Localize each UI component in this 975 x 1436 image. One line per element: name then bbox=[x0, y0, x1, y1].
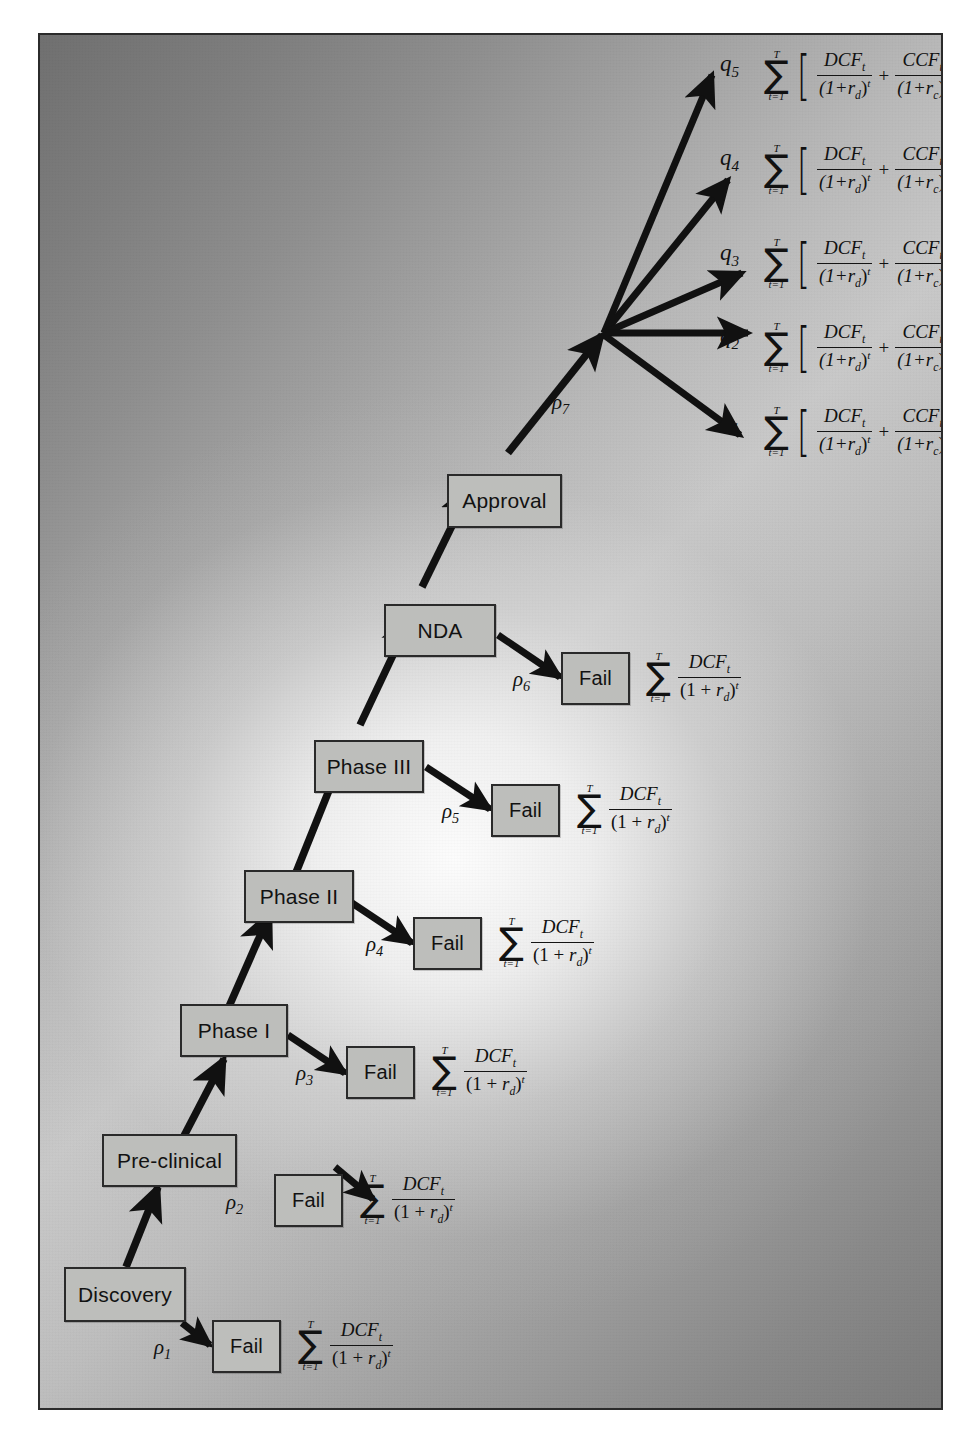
node-nda[interactable]: NDA bbox=[384, 604, 496, 657]
q-1-symbol: q bbox=[720, 407, 732, 432]
sigma-glyph-q4: ∑ bbox=[764, 153, 789, 184]
sigma-glyph-q2: ∑ bbox=[764, 331, 789, 362]
node-phase-iii[interactable]: Phase III bbox=[314, 740, 424, 793]
q-5-subscript: 5 bbox=[732, 63, 740, 80]
node-discovery[interactable]: Discovery bbox=[64, 1267, 186, 1322]
fraction-fail-2: DCFt (1 + rd)t bbox=[389, 1173, 458, 1226]
ccf-numerator-q1: CCFt bbox=[900, 405, 943, 431]
ccf-denominator-q3: (1+rc)t bbox=[895, 263, 943, 290]
fraction-ccf-q2: CCFt (1+rc)t bbox=[892, 321, 943, 374]
label-q-3: q3 bbox=[720, 240, 739, 270]
sigma-q2: T ∑ t=1 bbox=[764, 321, 789, 373]
bracket-open-q1: [ bbox=[797, 415, 810, 448]
sigma-lower-q4: t=1 bbox=[768, 185, 784, 196]
label-rho-6: ρ6 bbox=[513, 667, 530, 695]
dcf-numerator-q2: DCFt bbox=[822, 321, 867, 347]
sigma-fail-1: T ∑ t=1 bbox=[298, 1319, 323, 1371]
sigma-fail-5: T ∑ t=1 bbox=[577, 783, 602, 835]
formula-fail-5: T ∑ t=1 DCFt (1 + rd)t bbox=[577, 783, 675, 836]
sigma-glyph-fail-4: ∑ bbox=[499, 926, 524, 957]
sigma-fail-4: T ∑ t=1 bbox=[499, 916, 524, 968]
node-fail-3[interactable]: Fail bbox=[346, 1046, 415, 1099]
node-phase-ii-label: Phase II bbox=[260, 885, 339, 909]
arrow-discovery-to-preclinical bbox=[126, 1187, 158, 1267]
ccf-numerator-q4: CCFt bbox=[900, 143, 943, 169]
rho-1-symbol: ρ bbox=[154, 1335, 164, 1359]
ccf-denominator-q1: (1+rc)t bbox=[895, 431, 943, 458]
q-2-subscript: 2 bbox=[732, 335, 740, 352]
fraction-dcf-q3: DCFt (1+rd)t bbox=[814, 237, 875, 290]
fraction-fail-6: DCFt (1 + rd)t bbox=[675, 651, 744, 704]
diagram-frame: Approval NDA Phase III Phase II Phase I … bbox=[38, 33, 943, 1410]
fraction-dcf-q5: DCFt (1+rd)t bbox=[814, 49, 875, 102]
numerator-fail-6: DCFt bbox=[687, 651, 732, 677]
node-fail-3-label: Fail bbox=[364, 1061, 397, 1084]
node-fail-2-label: Fail bbox=[292, 1189, 325, 1212]
numerator-fail-5: DCFt bbox=[618, 783, 663, 809]
sigma-lower-q5: t=1 bbox=[768, 91, 784, 102]
fraction-fail-5: DCFt (1 + rd)t bbox=[606, 783, 675, 836]
node-fail-4[interactable]: Fail bbox=[413, 917, 482, 970]
sigma-fail-3: T ∑ t=1 bbox=[432, 1045, 457, 1097]
label-rho-7: ρ7 bbox=[552, 390, 569, 418]
fraction-fail-3: DCFt (1 + rd)t bbox=[461, 1045, 530, 1098]
denominator-fail-4: (1 + rd)t bbox=[531, 942, 594, 969]
sigma-lower-fail-4: t=1 bbox=[503, 958, 519, 969]
node-fail-5[interactable]: Fail bbox=[491, 784, 560, 837]
q-2-symbol: q bbox=[720, 323, 732, 348]
formula-success-q2: T ∑ t=1 [ DCFt (1+rd)t + CCFt (1+rc)t ] bbox=[764, 321, 943, 374]
node-nda-label: NDA bbox=[418, 619, 463, 643]
rho-1-subscript: 1 bbox=[164, 1346, 171, 1362]
sigma-lower-q3: t=1 bbox=[768, 279, 784, 290]
node-phase-i[interactable]: Phase I bbox=[180, 1004, 288, 1057]
dcf-denominator-q1: (1+rd)t bbox=[817, 431, 872, 458]
numerator-fail-1: DCFt bbox=[339, 1319, 384, 1345]
node-fail-6[interactable]: Fail bbox=[561, 652, 630, 705]
sigma-glyph-fail-5: ∑ bbox=[577, 793, 602, 824]
ccf-denominator-q4: (1+rc)t bbox=[895, 169, 943, 196]
node-fail-5-label: Fail bbox=[509, 799, 542, 822]
node-fail-2[interactable]: Fail bbox=[274, 1174, 343, 1227]
node-approval[interactable]: Approval bbox=[447, 474, 562, 528]
q-4-subscript: 4 bbox=[732, 157, 740, 174]
sigma-glyph-fail-6: ∑ bbox=[646, 661, 671, 692]
node-fail-1[interactable]: Fail bbox=[212, 1320, 281, 1373]
fraction-fail-1: DCFt (1 + rd)t bbox=[327, 1319, 396, 1372]
denominator-fail-6: (1 + rd)t bbox=[678, 677, 741, 704]
rho-2-subscript: 2 bbox=[236, 1201, 243, 1217]
q-3-subscript: 3 bbox=[732, 252, 740, 269]
fraction-dcf-q1: DCFt (1+rd)t bbox=[814, 405, 875, 458]
rho-7-subscript: 7 bbox=[562, 401, 569, 417]
q-1-subscript: 1 bbox=[732, 419, 740, 436]
label-q-5: q5 bbox=[720, 51, 739, 81]
formula-success-q4: T ∑ t=1 [ DCFt (1+rd)t + CCFt (1+rc)t ] bbox=[764, 143, 943, 196]
rho-3-subscript: 3 bbox=[306, 1072, 313, 1088]
denominator-fail-3: (1 + rd)t bbox=[464, 1071, 527, 1098]
dcf-numerator-q5: DCFt bbox=[822, 49, 867, 75]
sigma-lower-fail-1: t=1 bbox=[302, 1361, 318, 1372]
dcf-denominator-q3: (1+rd)t bbox=[817, 263, 872, 290]
fraction-dcf-q2: DCFt (1+rd)t bbox=[814, 321, 875, 374]
fraction-ccf-q5: CCFt (1+rc)t bbox=[892, 49, 943, 102]
bracket-open-q3: [ bbox=[797, 247, 810, 280]
formula-fail-2: T ∑ t=1 DCFt (1 + rd)t bbox=[360, 1173, 458, 1226]
rho-5-subscript: 5 bbox=[452, 810, 459, 826]
operator-plus-q5: + bbox=[875, 65, 892, 87]
formula-success-q1: T ∑ t=1 [ DCFt (1+rd)t + CCFt (1+rc)t ] bbox=[764, 405, 943, 458]
dcf-numerator-q4: DCFt bbox=[822, 143, 867, 169]
sigma-glyph-q3: ∑ bbox=[764, 247, 789, 278]
q-5-symbol: q bbox=[720, 51, 732, 76]
node-fail-1-label: Fail bbox=[230, 1335, 263, 1358]
arrow-rho1-to-fail1 bbox=[182, 1323, 210, 1345]
dcf-numerator-q3: DCFt bbox=[822, 237, 867, 263]
rho-7-symbol: ρ bbox=[552, 390, 562, 414]
formula-success-q5: T ∑ t=1 [ DCFt (1+rd)t + CCFt (1+rc)t ] bbox=[764, 49, 943, 102]
node-discovery-label: Discovery bbox=[78, 1283, 172, 1307]
fraction-ccf-q4: CCFt (1+rc)t bbox=[892, 143, 943, 196]
formula-fail-4: T ∑ t=1 DCFt (1 + rd)t bbox=[499, 916, 597, 969]
formula-fail-6: T ∑ t=1 DCFt (1 + rd)t bbox=[646, 651, 744, 704]
sigma-glyph-q1: ∑ bbox=[764, 415, 789, 446]
node-phase-ii[interactable]: Phase II bbox=[244, 870, 354, 923]
denominator-fail-2: (1 + rd)t bbox=[392, 1199, 455, 1226]
node-pre-clinical[interactable]: Pre-clinical bbox=[102, 1134, 237, 1187]
